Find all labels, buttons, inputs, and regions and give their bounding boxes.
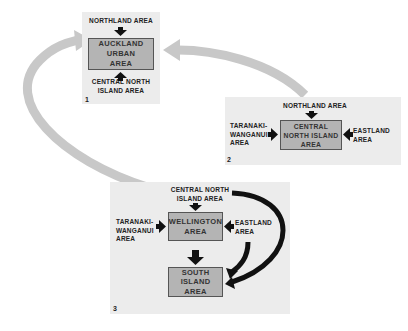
arrow-down-icon (189, 203, 202, 211)
arrow-down-icon (114, 27, 127, 36)
curved-arrow-eastland-to-south-island (232, 242, 248, 272)
arrow-right-icon (268, 128, 278, 141)
arrow-layer (0, 0, 408, 331)
arrow-down-icon (305, 111, 318, 119)
arrow-left-icon (224, 220, 234, 233)
arrow-up-icon (114, 72, 127, 81)
arrow-left-icon (343, 128, 353, 141)
arrow-down-large-icon (187, 250, 204, 265)
arrow-right-icon (156, 220, 166, 233)
